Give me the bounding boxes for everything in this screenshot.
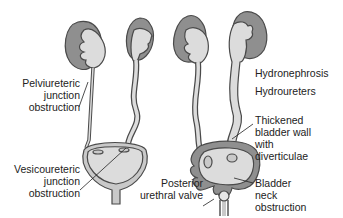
label-posterior-urethral-valve: Posterior urethral valve <box>130 177 203 201</box>
label-vesicoureteric-junction-obstruction: Vesicoureteric junction obstruction <box>0 163 80 199</box>
label-hydronephrosis: Hydronephrosis <box>255 67 329 79</box>
left-figure-right-kidney <box>127 18 154 148</box>
label-thickened-bladder-wall: Thickened bladder wall with diverticulae <box>255 114 311 162</box>
label-pelviureteric-junction-obstruction: Pelviureteric junction obstruction <box>0 77 80 113</box>
label-bladder-neck-obstruction: Bladder neck obstruction <box>255 177 306 213</box>
right-figure-left-kidney <box>174 15 209 156</box>
label-hydroureters: Hydroureters <box>255 85 316 97</box>
